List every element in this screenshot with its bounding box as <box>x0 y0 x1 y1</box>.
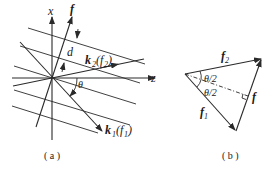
angle-arc <box>197 71 201 87</box>
f1-label: f 1 <box>200 105 208 121</box>
svg-text:): ) <box>127 123 132 137</box>
x-axis-label: x <box>47 4 54 18</box>
k2-label: k 2 ( f 2 ) <box>85 53 112 69</box>
theta-label: θ <box>78 79 83 90</box>
caption-a: ( a ) <box>44 150 60 162</box>
d-marker-top <box>77 29 78 38</box>
f-label: f <box>70 2 75 16</box>
panel-a: x z f d θ k 2 ( f 2 ) k 1 ( f 1 ) ( a ) <box>12 2 156 162</box>
svg-text:1: 1 <box>204 112 208 121</box>
svg-text:2: 2 <box>225 56 229 65</box>
svg-text:): ) <box>107 53 112 67</box>
svg-text:k: k <box>85 53 91 67</box>
half-angle-top-label: θ/2 <box>204 73 217 84</box>
figure-canvas: x z f d θ k 2 ( f 2 ) k 1 ( f 1 ) ( a ) <box>0 0 272 173</box>
panel-b: f 2 f 1 f θ/2 θ/2 ( b ) <box>185 49 261 162</box>
f-vector <box>36 17 72 127</box>
caption-b: ( b ) <box>222 150 239 162</box>
d-label: d <box>67 45 74 59</box>
z-axis-label: z <box>150 71 156 85</box>
svg-text:k: k <box>105 123 111 137</box>
theta-arc <box>70 78 77 96</box>
half-angle-bottom-label: θ/2 <box>204 87 217 98</box>
f2-label: f 2 <box>221 49 229 65</box>
f-vector-b <box>236 60 261 131</box>
f-label-b: f <box>252 90 257 104</box>
k1-label: k 1 ( f 1 ) <box>105 123 132 139</box>
d-marker-bottom <box>62 63 64 72</box>
